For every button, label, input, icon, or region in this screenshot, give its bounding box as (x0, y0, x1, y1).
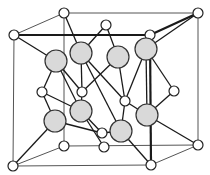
gray-atom (110, 120, 132, 142)
gray-atom (70, 100, 92, 122)
gray-atom (107, 46, 129, 68)
cube-edge (13, 165, 151, 166)
white-atom (193, 8, 203, 18)
white-atom (120, 96, 130, 106)
white-atom (97, 128, 107, 138)
white-atom (59, 8, 69, 18)
gray-atom (45, 50, 67, 72)
white-atom (193, 140, 203, 150)
white-atom (77, 87, 87, 97)
white-atom (169, 86, 179, 96)
cube-edge (13, 35, 14, 166)
cube-edge (13, 146, 64, 166)
white-atom (37, 87, 47, 97)
gray-atom (70, 42, 92, 64)
gray-atom (44, 110, 66, 132)
white-atom (9, 30, 19, 40)
cube-edge (64, 145, 198, 146)
cube-edge (150, 13, 198, 35)
white-atom (59, 141, 69, 151)
crystal-structure-diagram (0, 0, 210, 175)
white-atom (101, 20, 111, 30)
white-atom (99, 142, 109, 152)
cube-edge (151, 145, 198, 165)
gray-atom (135, 38, 157, 60)
gray-atom (136, 104, 158, 126)
white-atom (146, 160, 156, 170)
cube-edge (14, 13, 64, 35)
white-atom (8, 161, 18, 171)
